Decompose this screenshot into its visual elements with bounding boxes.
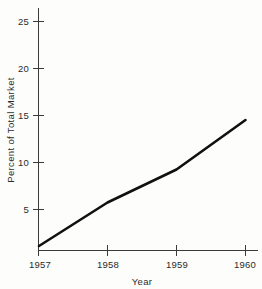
x-tick-label-1960: 1960 xyxy=(234,259,256,270)
y-tick-label-20: 20 xyxy=(18,63,29,74)
x-tick-label-1958: 1958 xyxy=(97,259,119,270)
x-axis-title: Year xyxy=(132,276,153,287)
line-chart-figure: 5 10 15 20 25 1957 1958 1959 1960 Year P… xyxy=(0,0,262,289)
x-tick-label-1959: 1959 xyxy=(166,259,188,270)
y-axis-title: Percent of Total Market xyxy=(5,77,16,183)
y-tick-label-25: 25 xyxy=(18,16,29,27)
x-tick-label-1957: 1957 xyxy=(29,259,51,270)
plot-area: 5 10 15 20 25 1957 1958 1959 1960 Year P… xyxy=(0,0,262,289)
y-tick-label-15: 15 xyxy=(18,110,29,121)
y-tick-label-5: 5 xyxy=(24,204,29,215)
data-series-line xyxy=(39,120,246,246)
y-tick-label-10: 10 xyxy=(18,157,29,168)
